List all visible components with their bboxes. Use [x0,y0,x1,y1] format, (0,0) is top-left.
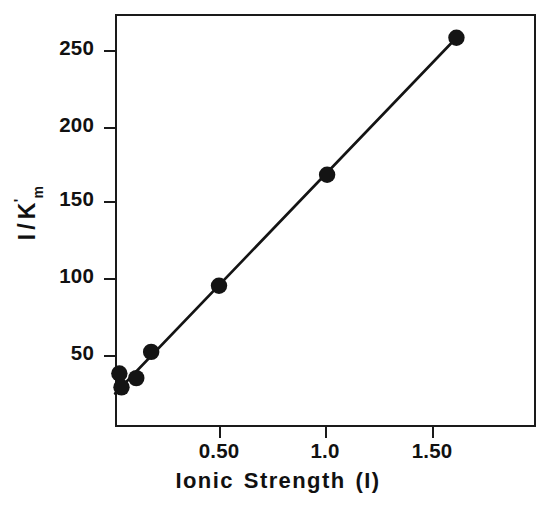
x-tick-1-50 [432,427,434,438]
y-ticklabel-250: 250 [38,38,94,59]
x-tick-1-0 [325,427,327,438]
chart-figure: 250 200 150 100 50 0.50 1.0 1.50 IonicSt… [0,0,556,505]
y-tick-200 [104,127,115,129]
x-ticklabel-1-50: 1.50 [389,441,475,462]
x-axis-title-word-1: Ionic [176,468,234,493]
y-axis-title-subscript: m [31,185,47,199]
y-axis-title-denominator-group: K'm [12,183,43,219]
y-ticklabel-200: 200 [38,115,94,136]
y-ticklabel-150: 150 [38,189,94,210]
y-ticklabel-100: 100 [38,266,94,287]
plot-area [115,14,536,427]
y-axis-title: I/K'm [12,122,43,302]
x-ticklabel-0-50: 0.50 [176,441,262,462]
y-tick-50 [104,355,115,357]
y-tick-250 [104,50,115,52]
y-axis-title-prime: ' [10,198,27,203]
x-axis-title-word-3: (I) [356,468,381,493]
y-axis-title-numerator: I [14,233,40,241]
y-tick-100 [104,278,115,280]
y-axis-title-denominator: K [14,201,40,219]
y-tick-150 [104,201,115,203]
y-axis-title-slash: / [14,222,40,230]
x-tick-0-50 [219,427,221,438]
x-axis-title-word-2: Strength [244,468,346,493]
x-axis-title: IonicStrength(I) [0,468,556,494]
x-ticklabel-1-0: 1.0 [282,441,368,462]
y-ticklabel-50: 50 [38,343,94,364]
